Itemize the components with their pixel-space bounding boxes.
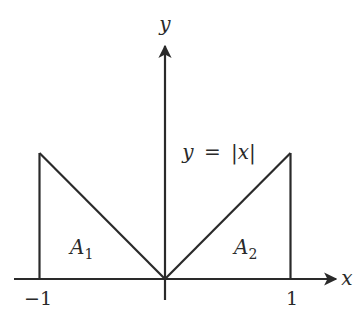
curve-left-branch [40, 153, 166, 279]
curve-right-branch [165, 153, 291, 279]
equation-rhs: |x| [231, 140, 256, 165]
abs-value-area-diagram: y x −1 1 y = |x| A1 A2 [0, 0, 359, 316]
x-axis-label: x [341, 266, 352, 290]
x-tick-label-1: 1 [286, 287, 298, 309]
region-label-a2: A2 [232, 235, 257, 262]
region-a1-subscript: 1 [84, 246, 93, 262]
equation-equals: = [204, 140, 221, 164]
region-a1-name: A [68, 235, 84, 259]
equation-lhs: y [181, 140, 194, 164]
region-a2-name: A [232, 235, 248, 259]
region-a2-subscript: 2 [248, 246, 257, 262]
y-axis-label: y [158, 12, 171, 36]
equation-label: y = |x| [181, 140, 256, 165]
region-label-a1: A1 [68, 235, 93, 262]
x-tick-label-neg1: −1 [24, 287, 52, 309]
